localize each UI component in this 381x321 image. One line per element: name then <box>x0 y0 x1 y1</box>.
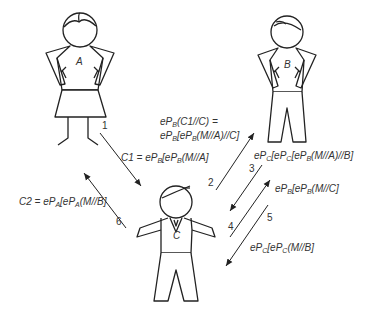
step-5-number: 5 <box>267 212 273 224</box>
person-c-figure <box>137 186 215 301</box>
message-to-b-line2: ePB[ePB(M//A)//C] <box>160 130 239 142</box>
diagram-canvas: A B C 1 2 3 4 5 6 C1 = ePB[ePB(M//A] ePB… <box>0 0 381 321</box>
step-2-number: 2 <box>208 177 214 189</box>
message-to-b-again: ePB[ePB(M//C] <box>275 183 339 195</box>
message-from-b-again: ePC[ePC(M//B] <box>250 242 314 254</box>
arrow-4 <box>230 180 270 237</box>
person-b-label: B <box>284 59 291 71</box>
step-6-number: 6 <box>116 216 122 228</box>
person-a-label: A <box>76 56 83 68</box>
person-c-label: C <box>173 230 180 242</box>
message-to-b-line1: ePB(C1//C) = <box>160 116 218 128</box>
message-from-b: ePC[ePC[ePB(M//A)//B] <box>254 150 353 162</box>
message-c1: C1 = ePB[ePB(M//A] <box>121 152 208 164</box>
person-b-figure <box>258 16 316 142</box>
arrow-3 <box>230 165 262 211</box>
arrow-5 <box>226 205 268 266</box>
step-3-number: 3 <box>249 163 255 175</box>
step-4-number: 4 <box>228 221 234 233</box>
step-1-number: 1 <box>102 120 108 132</box>
message-c2: C2 = ePA[ePA(M//B] <box>19 196 106 208</box>
